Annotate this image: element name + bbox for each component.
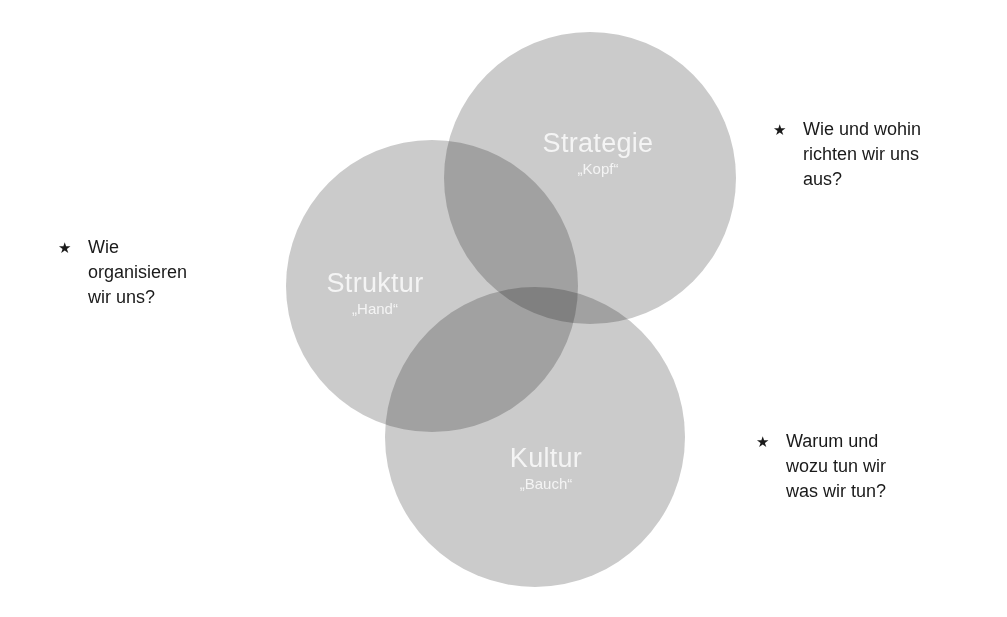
label-kultur-title: Kultur <box>510 443 582 473</box>
label-struktur: Struktur „Hand“ <box>327 268 424 318</box>
circle-kultur <box>385 287 685 587</box>
star-icon: ★ <box>58 235 88 260</box>
label-kultur-subtitle: „Bauch“ <box>510 475 582 493</box>
question-kultur-text: Warum und wozu tun wir was wir tun? <box>786 429 886 504</box>
star-icon: ★ <box>756 429 786 454</box>
label-struktur-title: Struktur <box>327 268 424 298</box>
question-strategie-text: Wie und wohin richten wir uns aus? <box>803 117 921 192</box>
label-strategie: Strategie „Kopf“ <box>543 128 654 178</box>
label-kultur: Kultur „Bauch“ <box>510 443 582 493</box>
label-struktur-subtitle: „Hand“ <box>327 300 424 318</box>
question-struktur: ★ Wie organisieren wir uns? <box>58 235 187 310</box>
star-icon: ★ <box>773 117 803 142</box>
question-struktur-text: Wie organisieren wir uns? <box>88 235 187 310</box>
question-strategie: ★ Wie und wohin richten wir uns aus? <box>773 117 921 192</box>
question-kultur: ★ Warum und wozu tun wir was wir tun? <box>756 429 886 504</box>
label-strategie-subtitle: „Kopf“ <box>543 160 654 178</box>
venn-diagram: Strategie „Kopf“ Struktur „Hand“ Kultur … <box>0 0 1007 617</box>
label-strategie-title: Strategie <box>543 128 654 158</box>
